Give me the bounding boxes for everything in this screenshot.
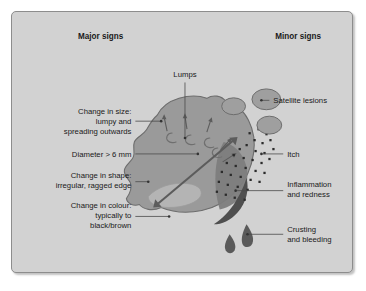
- label-change-in-shape: Change in shape: irregular, ragged edge: [56, 171, 132, 190]
- svg-text:and bleeding: and bleeding: [287, 235, 331, 244]
- svg-text:Change in shape:: Change in shape:: [71, 171, 132, 180]
- svg-text:spreading outwards: spreading outwards: [64, 127, 132, 136]
- svg-text:Change in size:: Change in size:: [78, 107, 131, 116]
- svg-text:lumpy and: lumpy and: [96, 117, 132, 126]
- satellite-lesion: [257, 116, 282, 134]
- leader-dot-change-in-size: [160, 120, 163, 123]
- satellite-lesion: [222, 98, 246, 115]
- label-lumps: Lumps: [173, 70, 196, 79]
- leader-dot-change-in-colour: [168, 215, 171, 218]
- svg-text:typically to: typically to: [95, 211, 131, 220]
- blood-drop: [242, 224, 253, 247]
- svg-text:and redness: and redness: [287, 190, 330, 199]
- leader-dot-change-in-shape: [147, 180, 150, 183]
- label-change-in-colour: Change in colour: typically to black/bro…: [71, 201, 132, 230]
- svg-text:Inflammation: Inflammation: [287, 180, 331, 189]
- leader-dot-inflammation: [234, 189, 237, 192]
- label-change-in-size: Change in size: lumpy and spreading outw…: [64, 107, 132, 136]
- blood-drops-group: [225, 224, 253, 253]
- svg-text:black/brown: black/brown: [90, 221, 131, 230]
- label-inflammation: Inflammation and redness: [287, 180, 331, 199]
- diagram-frame: Major signs Minor signs: [11, 11, 353, 273]
- header-major-signs: Major signs: [78, 32, 124, 41]
- label-diameter: Diameter > 6 mm: [72, 150, 132, 159]
- leader-dot-diameter: [197, 153, 200, 156]
- svg-text:Crusting: Crusting: [287, 225, 316, 234]
- label-satellite-lesions: Satellite lesions: [273, 96, 327, 105]
- label-crusting: Crusting and bleeding: [287, 225, 331, 244]
- melanoma-signs-diagram: Major signs Minor signs: [12, 12, 352, 272]
- leader-dot-lumps: [184, 137, 187, 140]
- leader-dot-crusting: [246, 233, 249, 236]
- leader-dot-satellite-lesions: [260, 99, 263, 102]
- header-minor-signs: Minor signs: [275, 32, 321, 41]
- blood-drop: [225, 234, 235, 253]
- leader-dot-itch: [260, 153, 263, 156]
- label-itch: Itch: [287, 150, 299, 159]
- svg-text:Change in colour:: Change in colour:: [71, 201, 132, 210]
- svg-text:irregular, ragged edge: irregular, ragged edge: [56, 181, 132, 190]
- mole-shape-group: [124, 96, 254, 224]
